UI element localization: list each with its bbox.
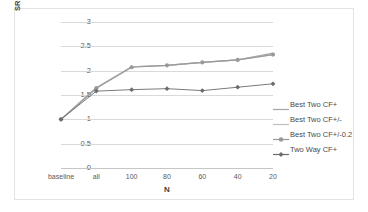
x-tick-label: 80 [163, 173, 171, 180]
x-tick-label: 20 [269, 173, 277, 180]
data-point-marker [165, 86, 170, 91]
legend-label: Best Two CF+/-0.2 [290, 131, 352, 139]
legend-swatch-icon [273, 100, 289, 109]
data-point-marker [165, 63, 169, 67]
legend-item[interactable]: Two Way CF+ [273, 142, 368, 157]
x-tick-label: 60 [198, 173, 206, 180]
data-point-marker [130, 65, 134, 69]
data-point-marker [235, 85, 240, 90]
legend-label: Best Two CF+/- [290, 116, 342, 124]
x-tick-label: all [93, 173, 100, 180]
x-tick-label: 40 [234, 173, 242, 180]
data-point-marker [271, 53, 275, 57]
data-point-marker [200, 60, 204, 64]
legend-swatch-icon [273, 145, 289, 154]
x-axis-title: N [61, 185, 273, 194]
data-point-marker [271, 81, 276, 86]
legend-swatch-icon [273, 130, 289, 139]
data-point-marker [236, 58, 240, 62]
series-line [61, 53, 273, 119]
series-lines [61, 22, 273, 168]
legend-swatch-icon [273, 115, 289, 124]
legend-item[interactable]: Best Two CF+/- [273, 112, 368, 127]
y-axis-title: SRI for Top N Candidates [13, 0, 22, 31]
legend-item[interactable]: Best Two CF+ [273, 97, 368, 112]
x-tick-label: baseline [48, 173, 74, 180]
x-tick-label: 100 [126, 173, 138, 180]
chart-container: SRI for Top N Candidates 00.511.522.53 b… [14, 8, 354, 200]
legend-label: Two Way CF+ [290, 146, 337, 154]
legend-item[interactable]: Best Two CF+/-0.2 [273, 127, 368, 142]
data-point-marker [129, 87, 134, 92]
gridline [61, 168, 273, 169]
data-point-marker [200, 88, 205, 93]
chart-legend: Best Two CF+Best Two CF+/-Best Two CF+/-… [273, 97, 368, 157]
plot-area [61, 22, 273, 168]
legend-label: Best Two CF+ [290, 101, 337, 109]
